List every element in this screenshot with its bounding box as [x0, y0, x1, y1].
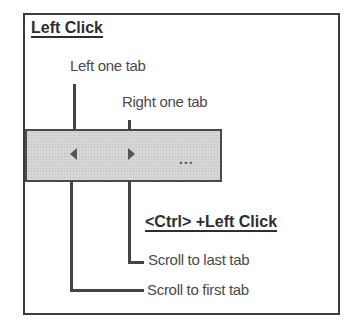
first-tab-connector-vertical: [70, 180, 73, 292]
scroll-to-last-tab-label: Scroll to last tab: [148, 251, 249, 268]
tab-overflow-ellipsis[interactable]: ...: [179, 151, 194, 167]
last-tab-connector-vertical: [128, 180, 131, 264]
triangle-left-icon[interactable]: [70, 148, 77, 160]
right-one-tab-label: Right one tab: [122, 93, 207, 110]
ctrl-left-click-heading: <Ctrl> +Left Click: [145, 213, 277, 231]
left-one-tab-label: Left one tab: [70, 57, 146, 74]
last-tab-connector-horizontal: [128, 261, 144, 264]
first-tab-connector-horizontal: [70, 289, 144, 292]
scroll-to-first-tab-label: Scroll to first tab: [147, 281, 249, 298]
left-arrow-connector-top: [73, 84, 76, 131]
triangle-right-icon[interactable]: [128, 148, 135, 160]
left-click-heading: Left Click: [31, 19, 103, 37]
